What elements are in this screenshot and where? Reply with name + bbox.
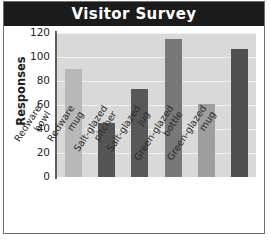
chart-figure: Visitor Survey Responses 020406080100120…	[0, 0, 271, 247]
bar	[231, 49, 248, 177]
y-tick-label: 120	[30, 26, 50, 38]
y-tick-label: 100	[30, 50, 50, 62]
x-axis-tick-labels: RedwarebowlRedwaremugSalt-glazedpitcherS…	[57, 179, 256, 231]
chart-title: Visitor Survey	[72, 5, 197, 23]
chart-title-banner: Visitor Survey	[4, 2, 264, 26]
y-tick-label: 80	[37, 74, 50, 86]
